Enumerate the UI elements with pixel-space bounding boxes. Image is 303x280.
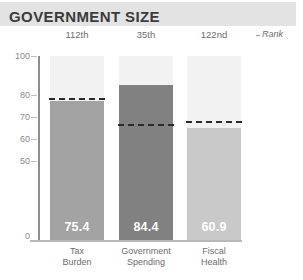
bar-caption-government-spending: Government Spending [116, 246, 176, 267]
bar-caption-tax-burden-line2: Burden [50, 257, 104, 268]
government-size-chart: GOVERNMENT SIZE 112th 35th 122nd Rank 10… [0, 0, 303, 280]
y-tick-mark-80 [31, 95, 37, 96]
y-tick-label-50: 50 [6, 156, 30, 166]
y-tick-label-0: 0 [6, 231, 30, 241]
bar-column-government-spending: 84.4 [119, 56, 173, 240]
bar-value-tax-burden: 75.4 [50, 220, 104, 234]
bar-column-fiscal-health: 60.9 [187, 56, 241, 240]
reference-line-fiscal-health [186, 121, 242, 123]
bar-caption-government-spending-line1: Government [116, 246, 176, 257]
y-tick-label-100: 100 [6, 51, 30, 61]
y-tick-mark-70 [31, 117, 37, 118]
bar-caption-fiscal-health-line1: Fiscal [187, 246, 241, 257]
x-axis-baseline [30, 240, 242, 242]
reference-line-tax-burden [49, 98, 105, 100]
bar-caption-fiscal-health: Fiscal Health [187, 246, 241, 267]
y-tick-label-70: 70 [6, 112, 30, 122]
reference-line-government-spending [118, 124, 174, 126]
bar-value-fiscal-health: 60.9 [187, 220, 241, 234]
y-axis-line [38, 56, 40, 240]
plot-area: 100 80 70 60 50 0 75.4 Tax Burden 84. [0, 0, 303, 280]
bar-caption-tax-burden: Tax Burden [50, 246, 104, 267]
y-tick-label-80: 80 [6, 90, 30, 100]
bar-caption-fiscal-health-line2: Health [187, 257, 241, 268]
bar-caption-tax-burden-line1: Tax [50, 246, 104, 257]
y-tick-label-60: 60 [6, 134, 30, 144]
bar-column-tax-burden: 75.4 [50, 56, 104, 240]
y-tick-mark-100 [31, 56, 37, 57]
bar-caption-government-spending-line2: Spending [116, 257, 176, 268]
y-tick-mark-50 [31, 161, 37, 162]
bar-fill-tax-burden: 75.4 [50, 101, 104, 240]
bar-fill-government-spending: 84.4 [119, 85, 173, 240]
bar-fill-fiscal-health: 60.9 [187, 128, 241, 240]
y-tick-mark-60 [31, 139, 37, 140]
bar-value-government-spending: 84.4 [119, 220, 173, 234]
